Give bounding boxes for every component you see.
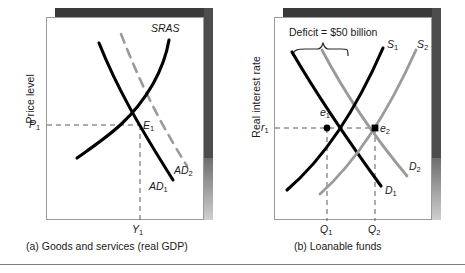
curve-d2 (322, 50, 407, 176)
panel-a-shadow-right-fade (204, 158, 213, 220)
equilibrium-label-e1: E1 (143, 119, 154, 133)
curve-label-s2: S2 (417, 38, 428, 52)
panel-b-x-tick-q2: Q2 (368, 223, 380, 237)
equilibrium-label-e2: e2 (380, 122, 390, 136)
panel-a-curves (47, 18, 205, 221)
panel-b-shadow-top (283, 8, 441, 17)
panel-loanable-funds: Deficit = $50 billion S1 S2 D1 D2 e1 e2 … (250, 8, 440, 238)
equilibrium-label-e1: e1 (320, 106, 330, 120)
panel-a-shadow-top (55, 8, 213, 17)
panel-a-y-tick-p1: P1 (29, 118, 40, 132)
panel-a-x-tick-y1: Y1 (132, 223, 143, 237)
panel-b-x-tick-q1: Q1 (320, 223, 332, 237)
panel-b-curves (275, 18, 433, 221)
panel-a-y-axis-label: Price level (24, 74, 36, 124)
deficit-brace (293, 43, 348, 56)
curve-label-s1: S1 (387, 38, 398, 52)
curve-label-ad1: AD1 (149, 180, 168, 194)
curve-d1 (292, 52, 381, 186)
caption-panel-a: (a) Goods and services (real GDP) (26, 240, 188, 252)
curve-label-ad2: AD2 (174, 164, 193, 178)
deficit-annotation: Deficit = $50 billion (289, 26, 377, 38)
curve-label-d2: D2 (409, 160, 421, 174)
curve-ad2 (121, 34, 187, 166)
caption-panel-b: (b) Loanable funds (294, 240, 382, 252)
curve-label-sras: SRAS (151, 22, 180, 34)
panel-b-plot-area: Deficit = $50 billion S1 S2 D1 D2 e1 e2 (274, 17, 432, 220)
panel-b-shadow-right-fade (432, 158, 441, 220)
equilibrium-dot-e1 (324, 125, 331, 132)
curve-label-d1: D1 (385, 184, 397, 198)
equilibrium-dot-e2 (372, 125, 379, 132)
panel-goods-and-services: SRAS AD1 AD2 E1 Price level P1 Y1 (22, 8, 212, 238)
curve-sras (77, 40, 169, 158)
panel-b-y-tick-r1: r1 (261, 121, 269, 135)
two-panel-economics-figure: SRAS AD1 AD2 E1 Price level P1 Y1 (0, 0, 465, 273)
panel-a-plot-area: SRAS AD1 AD2 E1 (46, 17, 204, 220)
footer-divider (0, 264, 465, 265)
